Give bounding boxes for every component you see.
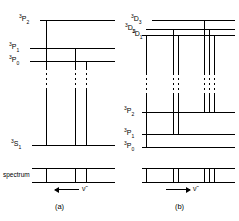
term-label-3D1: 3D1 xyxy=(132,29,143,40)
level-line-3P0 xyxy=(142,147,235,148)
spectrum-bottom-rule xyxy=(32,182,115,183)
transition-3D1-3P0-upper xyxy=(146,35,147,73)
transition-3D2-3P2-break xyxy=(209,73,210,93)
transition-3D1-3P1-upper xyxy=(178,35,179,73)
spectrum-line-4 xyxy=(204,168,205,182)
transition-3D3-3P2-lower xyxy=(204,93,205,112)
transition-3P0-3S1-upper xyxy=(86,61,87,68)
term-label-3P2: 3P2 xyxy=(19,14,29,25)
transition-3D1-3P0-break xyxy=(146,73,147,93)
panel-b-energy-diagram: 3D3 3D2 3D1 3P2 3P1 3P0 ν̃ (b) xyxy=(120,0,239,221)
transition-3D2-3P1-break xyxy=(173,73,174,93)
transition-3D1-3P0-lower xyxy=(146,93,147,147)
transition-3P2-3S1-lower xyxy=(46,90,47,145)
transition-3D2-3P1-upper xyxy=(173,29,174,73)
arrow-head-right-icon xyxy=(186,187,191,193)
arrow-head-left-icon xyxy=(54,187,59,193)
spectrum-line-2 xyxy=(173,168,174,182)
level-line-3P2 xyxy=(40,20,115,21)
caption-a: (a) xyxy=(0,203,119,211)
level-line-3P1 xyxy=(30,48,115,49)
level-line-3P2 xyxy=(142,112,235,113)
term-label-3P2: 3P2 xyxy=(124,106,134,117)
transition-3P0-3S1-lower xyxy=(86,90,87,145)
level-line-3D2 xyxy=(146,29,235,30)
term-label-3P1: 3P1 xyxy=(9,42,19,53)
panel-a-energy-diagram: 3P2 3P1 3P0 3S1 spectrum ν̃ (a) xyxy=(0,0,119,221)
wavenumber-symbol: ν̃ xyxy=(82,185,86,192)
spectrum-line-3 xyxy=(86,168,87,182)
transition-3D3-3P2-upper xyxy=(204,20,205,73)
spectrum-line-2 xyxy=(75,168,76,182)
wavenumber-axis-b: ν̃ xyxy=(166,185,197,194)
transition-3D1-3P2-upper xyxy=(214,35,215,73)
term-label-3P0: 3P0 xyxy=(9,55,19,66)
level-line-3P1 xyxy=(142,134,235,135)
transition-3P1-3S1-lower xyxy=(75,90,76,145)
spectrum-label: spectrum xyxy=(3,172,30,179)
transition-3D1-3P1-break xyxy=(178,73,179,93)
transition-3P2-3S1-upper xyxy=(46,20,47,68)
term-label-3S1: 3S1 xyxy=(11,139,21,150)
spectrum-line-1 xyxy=(46,168,47,182)
wavenumber-symbol: ν̃ xyxy=(193,185,197,192)
transition-3P1-3S1-upper xyxy=(75,48,76,68)
transition-3D2-3P2-lower xyxy=(209,93,210,112)
wavenumber-axis-a: ν̃ xyxy=(55,185,86,194)
spectrum-top-rule xyxy=(142,168,235,169)
level-line-3D3 xyxy=(152,20,235,21)
spectrum-line-6 xyxy=(214,168,215,182)
transition-3D3-3P2-break xyxy=(204,73,205,93)
term-label-3P1: 3P1 xyxy=(124,128,134,139)
transition-3D2-3P2-upper xyxy=(209,29,210,73)
transition-3D1-3P1-lower xyxy=(178,93,179,134)
level-line-3D1 xyxy=(142,35,235,36)
transition-3P1-3S1-break xyxy=(75,68,76,90)
term-label-3P0: 3P0 xyxy=(124,141,134,152)
level-line-3P0 xyxy=(30,61,115,62)
transition-3P2-3S1-break xyxy=(46,68,47,90)
spectrum-bottom-rule xyxy=(142,182,235,183)
spectrum-line-1 xyxy=(146,168,147,182)
spectrum-line-3 xyxy=(178,168,179,182)
caption-b: (b) xyxy=(120,203,239,211)
transition-3D1-3P2-break xyxy=(214,73,215,93)
transition-3P0-3S1-break xyxy=(86,68,87,90)
spectrum-line-5 xyxy=(209,168,210,182)
transition-3D1-3P2-lower xyxy=(214,93,215,112)
transition-3D2-3P1-lower xyxy=(173,93,174,134)
level-line-3S1 xyxy=(32,145,115,146)
spectrum-top-rule xyxy=(32,168,115,169)
